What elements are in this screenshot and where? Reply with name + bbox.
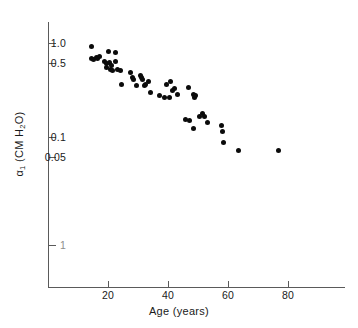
data-point [110,68,115,73]
data-point [134,83,139,88]
data-point [221,140,226,145]
plot-area [0,0,358,328]
scatter-figure: 1.00.50.10.051 20406080 α1 (CM H2O) Age … [0,0,358,328]
data-point [106,49,111,54]
data-point [193,93,198,98]
data-point [148,90,153,95]
data-point [146,79,151,84]
data-point [276,148,281,153]
data-point [202,114,207,119]
data-point [175,92,180,97]
data-point [236,148,241,153]
data-point [118,68,123,73]
data-point [128,70,133,75]
data-point [219,123,224,128]
data-point [186,85,191,90]
data-point [172,86,177,91]
data-point [220,129,225,134]
data-point [113,50,118,55]
data-point [191,126,196,131]
data-point [205,120,210,125]
data-point [131,77,136,82]
data-point [97,54,102,59]
data-point [168,79,173,84]
data-point [167,95,172,100]
data-point [187,118,192,123]
data-point [119,82,124,87]
data-point [89,44,94,49]
data-point [113,59,118,64]
